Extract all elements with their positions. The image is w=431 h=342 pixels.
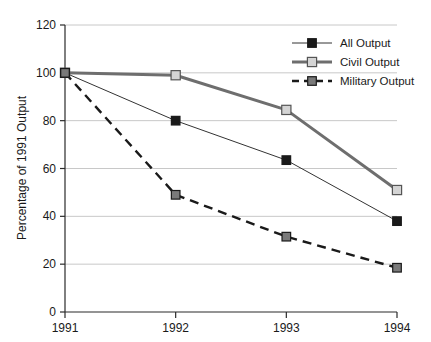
x-axis-tick-label: 1993 (273, 321, 300, 335)
data-point-marker (171, 116, 180, 125)
y-axis-tick-label: 40 (43, 209, 57, 223)
x-axis-tick-label: 1992 (162, 321, 189, 335)
data-point-marker (393, 263, 402, 272)
data-point-marker (282, 232, 291, 241)
data-point-marker (282, 156, 291, 165)
data-point-marker (392, 185, 401, 194)
legend-marker-sample (308, 77, 317, 86)
chart-canvas: 020406080100120 1991199219931994 Percent… (0, 0, 431, 342)
y-axis-title: Percentage of 1991 Output (15, 95, 29, 240)
legend-item-label: Civil Output (340, 56, 400, 68)
data-point-marker (171, 71, 180, 80)
x-axis-tick-label: 1994 (384, 321, 411, 335)
x-axis-tick-label: 1991 (52, 321, 79, 335)
data-point-marker (171, 191, 180, 200)
legend-marker-sample (308, 39, 317, 48)
legend-item-label: All Output (340, 37, 391, 49)
data-point-marker (393, 217, 402, 226)
data-point-marker (61, 69, 70, 78)
y-axis-tick-label: 100 (36, 66, 56, 80)
y-axis-tick-label: 80 (43, 114, 57, 128)
y-axis-tick-label: 120 (36, 18, 56, 32)
legend-item-label: Military Output (340, 75, 415, 87)
legend-marker-sample (307, 57, 316, 66)
data-point-marker (282, 105, 291, 114)
y-axis-tick-label: 20 (43, 257, 57, 271)
line-chart: 020406080100120 1991199219931994 Percent… (0, 0, 431, 342)
y-axis-tick-label: 60 (43, 162, 57, 176)
y-axis-tick-label: 0 (49, 305, 56, 319)
